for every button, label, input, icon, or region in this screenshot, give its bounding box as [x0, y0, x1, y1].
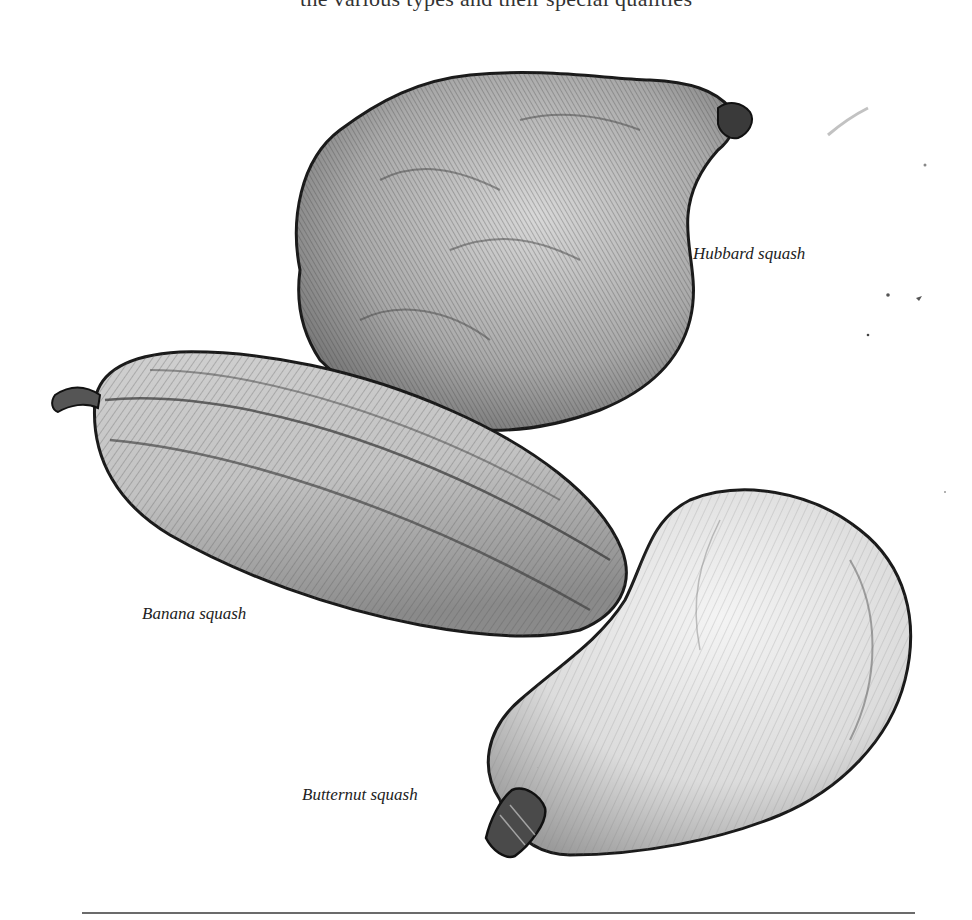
butternut-squash-caption: Butternut squash [302, 785, 418, 805]
horizontal-rule [82, 912, 915, 914]
banana-squash-caption: Banana squash [142, 604, 246, 624]
hubbard-squash-drawing [296, 73, 752, 431]
hubbard-squash-caption: Hubbard squash [693, 244, 805, 264]
stray-marks [828, 108, 946, 493]
squash-illustration [0, 0, 972, 920]
